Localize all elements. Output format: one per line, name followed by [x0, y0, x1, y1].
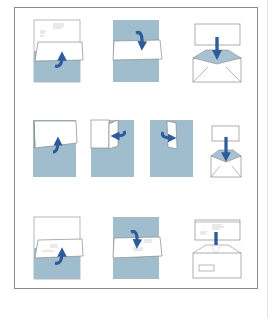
step-fold-bottom-third-up — [34, 20, 83, 82]
step-insert-into-small-envelope — [211, 126, 241, 177]
step-fold-bottom-third-up-address — [34, 217, 83, 279]
envelope-window-icon — [199, 265, 214, 271]
step-fold-right-side-left — [91, 120, 134, 177]
step-fold-top-third-down-address — [113, 217, 162, 279]
step-fold-bottom-half-up — [33, 120, 77, 177]
step-fold-top-third-down — [113, 20, 162, 82]
step-insert-into-window-envelope — [193, 220, 241, 278]
folding-diagram — [0, 0, 271, 318]
step-insert-into-envelope — [193, 24, 241, 82]
step-fold-left-side-right — [150, 120, 193, 177]
